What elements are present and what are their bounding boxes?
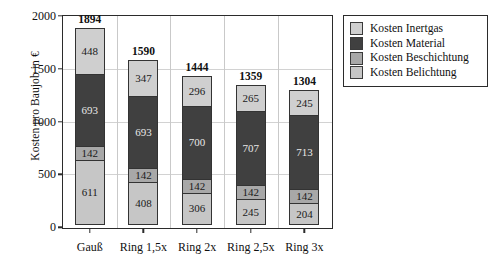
bar-segment[interactable]: 693 (75, 74, 105, 147)
bar-segment-value: 448 (82, 46, 99, 57)
bar-segment-value: 245 (296, 98, 313, 109)
bar-segment-value: 296 (189, 86, 206, 97)
bar-segment[interactable]: 611 (75, 160, 105, 225)
x-axis-tick-mark (250, 228, 251, 233)
bar-segment-value: 713 (296, 147, 313, 158)
gridline-vertical (170, 16, 171, 228)
bar-total-label: 1359 (239, 70, 262, 82)
bar-segment[interactable]: 296 (182, 76, 212, 107)
bar-segment[interactable]: 142 (289, 189, 319, 204)
bar-segment-value: 142 (242, 187, 259, 198)
bar-segment-value: 142 (135, 170, 152, 181)
bar-segment-value: 693 (135, 127, 152, 138)
bar-4[interactable]: 2657071422451359 (236, 85, 266, 229)
legend-swatch-icon (350, 52, 363, 65)
bar-segment[interactable]: 142 (128, 168, 158, 183)
plot-area: 05001000150020004486931426111894Gauß3476… (62, 15, 333, 229)
bar-segment-value: 142 (82, 148, 99, 159)
x-axis-tick-label: Gauß (77, 240, 103, 255)
plot-inner: 05001000150020004486931426111894Gauß3476… (63, 16, 332, 228)
bar-segment-value: 204 (296, 209, 313, 220)
bar-2[interactable]: 3476931424081590 (128, 60, 158, 228)
x-axis-tick-label: Ring 2,5x (227, 240, 274, 255)
legend-item-4[interactable]: Kosten Belichtung (350, 66, 480, 80)
bar-segment-value: 142 (296, 191, 313, 202)
bar-total-label: 1304 (293, 75, 316, 87)
legend-item-label: Kosten Belichtung (370, 66, 457, 80)
bar-segment[interactable]: 306 (182, 193, 212, 225)
y-axis-tick-mark (58, 68, 63, 69)
bar-segment-value: 347 (135, 73, 152, 84)
bar-segment-value: 245 (242, 207, 259, 218)
bar-segment-value: 142 (189, 181, 206, 192)
bar-segment-value: 700 (189, 137, 206, 148)
y-axis-tick-mark (58, 15, 63, 16)
chart-legend: Kosten InertgasKosten MaterialKosten Bes… (343, 15, 488, 87)
bar-segment[interactable]: 142 (236, 185, 266, 200)
gridline-vertical (278, 16, 279, 228)
gridline-vertical (117, 16, 118, 228)
legend-item-2[interactable]: Kosten Material (350, 37, 480, 51)
gridline-vertical (224, 16, 225, 228)
bar-segment[interactable]: 347 (128, 60, 158, 97)
bar-segment-value: 265 (242, 93, 259, 104)
legend-item-label: Kosten Beschichtung (370, 51, 469, 65)
legend-swatch-icon (350, 66, 363, 79)
legend-swatch-icon (350, 22, 363, 35)
y-axis-tick-mark (58, 226, 63, 227)
bar-segment-value: 707 (242, 143, 259, 154)
legend-item-1[interactable]: Kosten Inertgas (350, 22, 480, 36)
x-axis-tick-mark (304, 228, 305, 233)
bar-segment[interactable]: 700 (182, 106, 212, 180)
bar-segment-value: 408 (135, 198, 152, 209)
legend-swatch-icon (350, 37, 363, 50)
bar-segment[interactable]: 245 (289, 90, 319, 116)
bar-segment[interactable]: 265 (236, 85, 266, 113)
x-axis-tick-mark (89, 228, 90, 233)
bar-segment-value: 306 (189, 203, 206, 214)
bar-segment[interactable]: 204 (289, 203, 319, 225)
bar-total-label: 1894 (78, 13, 101, 25)
bar-1[interactable]: 4486931426111894 (75, 28, 105, 228)
bar-segment[interactable]: 142 (182, 179, 212, 194)
x-axis-tick-label: Ring 2x (178, 240, 216, 255)
bar-segment[interactable]: 448 (75, 28, 105, 75)
legend-item-3[interactable]: Kosten Beschichtung (350, 51, 480, 65)
bar-segment[interactable]: 693 (128, 96, 158, 169)
legend-item-label: Kosten Inertgas (370, 22, 443, 36)
legend-item-label: Kosten Material (370, 37, 445, 51)
bar-segment[interactable]: 408 (128, 182, 158, 225)
bar-segment[interactable]: 142 (75, 146, 105, 161)
x-axis-tick-mark (143, 228, 144, 233)
x-axis-tick-mark (196, 228, 197, 233)
bar-segment[interactable]: 245 (236, 199, 266, 225)
stacked-bar-chart: Kosten pro Baujob in € 05001000150020004… (0, 0, 491, 269)
bar-segment[interactable]: 707 (236, 111, 266, 186)
bar-5[interactable]: 2457131422041304 (289, 90, 319, 228)
x-axis-tick-label: Ring 1,5x (120, 240, 167, 255)
bar-segment-value: 611 (82, 187, 98, 198)
bar-3[interactable]: 2967001423061444 (182, 76, 212, 228)
y-axis-tick-mark (58, 121, 63, 122)
bar-segment-value: 693 (82, 105, 99, 116)
bar-segment[interactable]: 713 (289, 115, 319, 190)
y-axis-tick-mark (58, 174, 63, 175)
bar-total-label: 1444 (186, 61, 209, 73)
bar-total-label: 1590 (132, 45, 155, 57)
x-axis-tick-label: Ring 3x (285, 240, 323, 255)
